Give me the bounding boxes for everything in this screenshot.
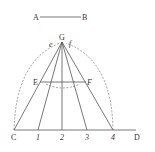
label-a: A xyxy=(33,13,39,22)
label-c: C xyxy=(11,133,16,142)
label-4: 4 xyxy=(111,133,115,142)
rays xyxy=(14,42,113,130)
label-F: F xyxy=(86,78,92,87)
label-E: E xyxy=(33,78,38,87)
label-e-small: e xyxy=(49,40,53,49)
label-b: B xyxy=(82,13,87,22)
label-d: D xyxy=(134,133,140,142)
label-g: G xyxy=(59,33,65,42)
label-2: 2 xyxy=(60,133,64,142)
label-3: 3 xyxy=(84,133,89,142)
geometric-figure: A B G e f E F C 1 2 3 4 D xyxy=(0,0,155,152)
label-f-small: f xyxy=(69,39,73,48)
label-1: 1 xyxy=(36,133,40,142)
ray-g-c xyxy=(14,42,62,130)
